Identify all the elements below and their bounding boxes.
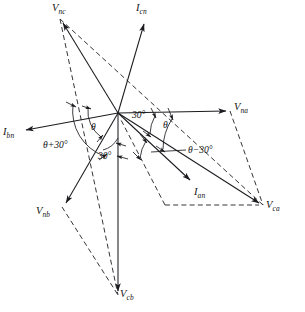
arc-thirty-right <box>150 116 155 134</box>
phasor-diagram-canvas <box>0 0 305 312</box>
construction-line-vna-vca <box>230 111 263 205</box>
arc-tick-theta-plus-30-a <box>66 102 76 107</box>
arc-thirty-left <box>103 138 118 150</box>
arc-tick-theta-left-a <box>82 106 91 109</box>
angle-label-thirty-left: 30° <box>98 150 111 161</box>
label-v-cb: Vcb <box>120 288 134 302</box>
vector-i-cn <box>118 24 144 113</box>
angle-label-theta-right: θ <box>163 119 168 130</box>
phasor-vectors <box>26 23 259 291</box>
angle-label-thirty-right: 30° <box>132 109 145 120</box>
arc-tick-thirty-right-a <box>151 108 156 118</box>
label-i-cn: Icn <box>136 2 147 16</box>
angle-arcs <box>66 102 186 160</box>
construction-line-origin-corner <box>120 118 165 205</box>
construction-line-vnb-vcb <box>62 207 118 295</box>
label-i-an: Ian <box>194 186 205 200</box>
vector-i-an <box>118 113 190 180</box>
arc-tick-theta-minus-30-b <box>133 152 141 160</box>
arc-theta-minus-30 <box>140 141 146 158</box>
label-i-bn: Ibn <box>3 126 14 140</box>
vector-v-nc <box>63 23 118 113</box>
phasor-diagram: Vnc Icn Ibn Vna Ian Vca Vnb Vcb θ+30° θ … <box>0 0 305 312</box>
label-v-nb: Vnb <box>36 205 50 219</box>
leader-theta-minus-30 <box>151 150 186 152</box>
label-v-na: Vna <box>234 101 248 115</box>
label-v-ca: Vca <box>266 199 280 213</box>
angle-label-theta-left: θ <box>91 121 96 132</box>
vector-i-bn <box>26 113 118 130</box>
arc-theta-plus-30 <box>73 105 104 156</box>
angle-label-theta-minus-30: θ−30° <box>188 144 213 155</box>
label-v-nc: Vnc <box>52 2 66 16</box>
arc-tick-thirty-left-b <box>117 156 128 159</box>
arc-tick-theta-right-a <box>168 108 173 120</box>
angle-label-theta-plus-30: θ+30° <box>43 139 68 150</box>
construction-lines <box>60 19 263 295</box>
